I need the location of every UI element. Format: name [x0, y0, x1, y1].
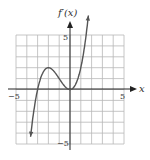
y-axis-arrow-icon: [67, 21, 73, 28]
x-axis-label: x: [139, 83, 145, 94]
derivative-graph: f′(x) x −5 5 5 −5: [0, 0, 150, 160]
x-tick-max: 5: [120, 92, 125, 101]
y-axis-label: f′(x): [57, 7, 78, 18]
y-tick-min: −5: [57, 139, 69, 148]
x-axis-arrow-icon: [130, 86, 137, 92]
y-tick-max: 5: [63, 33, 68, 42]
x-tick-min: −5: [8, 92, 20, 101]
